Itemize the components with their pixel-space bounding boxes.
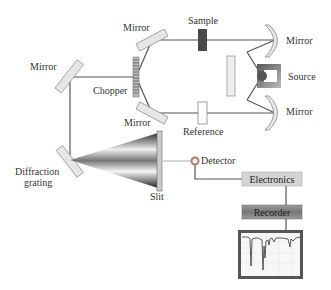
label-mirror-right-bottom: Mirror [286, 106, 313, 117]
label-mirror-left: Mirror [30, 61, 57, 72]
sample-cell [198, 29, 207, 51]
spectrometer-diagram: Mirror Mirror Mirror Mirror Mirror Sampl… [0, 0, 331, 290]
label-grating: grating [24, 177, 52, 188]
beam-paths [70, 40, 286, 232]
dispersion-cone [70, 133, 158, 188]
label-diffraction: Diffraction [15, 166, 59, 177]
label-sample: Sample [188, 15, 219, 26]
reference-cell [198, 102, 207, 124]
label-slit: Slit [150, 191, 164, 202]
source-mirror [227, 56, 235, 96]
label-mirror-top: Mirror [123, 22, 150, 33]
detector [192, 158, 199, 165]
label-recorder: Recorder [254, 207, 291, 218]
chopper [133, 57, 139, 97]
source [257, 64, 281, 88]
label-detector: Detector [201, 155, 236, 166]
mirror-left [55, 60, 83, 93]
slit [157, 131, 162, 191]
label-chopper: Chopper [93, 85, 128, 96]
label-electronics: Electronics [250, 174, 295, 185]
label-source: Source [288, 71, 316, 82]
label-mirror-right-top: Mirror [286, 35, 313, 46]
recorder-display [238, 230, 303, 279]
label-reference: Reference [183, 126, 224, 137]
label-mirror-bottom: Mirror [124, 117, 151, 128]
